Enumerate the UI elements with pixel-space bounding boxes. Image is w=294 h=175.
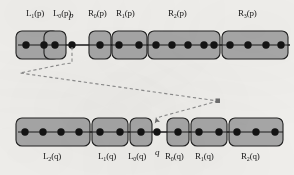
node[interactable] <box>22 41 29 48</box>
node[interactable] <box>271 128 278 135</box>
node[interactable] <box>226 41 233 48</box>
node[interactable] <box>200 41 207 48</box>
label-R0q: R0(q) <box>165 152 184 162</box>
node[interactable] <box>57 128 64 135</box>
node[interactable] <box>135 41 142 48</box>
figure-canvas: L1(p) L0(p) p R0(p) R1(p) R2(p) R3(p) L2… <box>0 0 294 175</box>
label-R2p: R2(p) <box>168 9 187 19</box>
node[interactable] <box>244 41 251 48</box>
node[interactable] <box>184 41 191 48</box>
label-R3p: R3(p) <box>238 9 257 19</box>
node-pivot-q[interactable] <box>153 128 160 135</box>
node[interactable] <box>210 41 217 48</box>
node[interactable] <box>116 128 123 135</box>
node[interactable] <box>21 128 28 135</box>
node[interactable] <box>96 128 103 135</box>
node[interactable] <box>195 128 202 135</box>
label-L0q: L0(q) <box>128 152 146 162</box>
label-pivot-q: q <box>155 148 159 157</box>
connector-junction-dot <box>216 99 221 104</box>
node[interactable] <box>262 41 269 48</box>
diagram-svg <box>0 0 294 175</box>
node[interactable] <box>51 41 58 48</box>
q-row-group <box>16 118 283 146</box>
label-R0p: R0(p) <box>88 9 107 19</box>
label-R1p: R1(p) <box>116 9 135 19</box>
node[interactable] <box>215 128 222 135</box>
p-row-group <box>16 31 290 59</box>
label-pivot-p: p <box>69 11 73 20</box>
node[interactable] <box>115 41 122 48</box>
label-R1q: R1(q) <box>195 152 214 162</box>
node[interactable] <box>233 128 240 135</box>
node[interactable] <box>168 41 175 48</box>
node[interactable] <box>174 128 181 135</box>
label-L1p: L1(p) <box>26 9 44 19</box>
node[interactable] <box>152 41 159 48</box>
node[interactable] <box>277 41 284 48</box>
connector-fanout-to-q <box>156 101 218 118</box>
node[interactable] <box>75 128 82 135</box>
node[interactable] <box>137 128 144 135</box>
label-R2q: R2(q) <box>241 152 260 162</box>
node[interactable] <box>96 41 103 48</box>
node[interactable] <box>40 41 47 48</box>
label-L1q: L1(q) <box>98 152 116 162</box>
node[interactable] <box>252 128 259 135</box>
label-L2q: L2(q) <box>43 152 61 162</box>
node[interactable] <box>39 128 46 135</box>
